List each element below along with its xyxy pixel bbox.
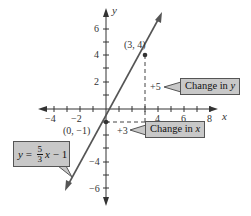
x-tick-label: 8 xyxy=(207,114,212,124)
change-in-x-callout: Change in x xyxy=(145,121,205,138)
point-0-neg1 xyxy=(104,120,109,125)
equation-equals: = xyxy=(23,148,35,160)
y-tick-label: 6 xyxy=(94,24,99,34)
change-in-y-text: Change in xyxy=(185,80,231,91)
change-in-x-var: x xyxy=(196,123,201,134)
x-axis xyxy=(38,106,218,112)
point-upper-label: (3, 4) xyxy=(124,40,146,50)
coordinate-plane xyxy=(0,0,251,216)
equation-rest: − 1 xyxy=(50,148,67,160)
x-tick-label: −4 xyxy=(45,114,56,124)
equation-pointer xyxy=(58,166,72,177)
point-3-4 xyxy=(143,53,148,58)
point-lower-label: (0, −1) xyxy=(63,126,90,136)
y-tick-label: 2 xyxy=(94,77,99,87)
equation-numerator: 5 xyxy=(37,145,44,155)
equation-callout: y = 5 3 x − 1 xyxy=(13,141,70,167)
rise-label: +5 xyxy=(150,82,161,92)
y-tick-label: −6 xyxy=(89,184,100,194)
change-in-y-pointer xyxy=(164,82,181,92)
change-in-x-pointer xyxy=(130,125,146,135)
y-tick-label: 4 xyxy=(94,50,99,60)
change-in-x-text: Change in xyxy=(150,123,196,134)
equation-denominator: 3 xyxy=(38,155,43,164)
y-axis xyxy=(103,8,109,206)
run-label: +3 xyxy=(117,126,128,136)
slope-guides xyxy=(106,55,145,122)
equation-fraction: 5 3 xyxy=(37,145,44,164)
y-axis-label: y xyxy=(112,5,117,16)
y-tick-label: −4 xyxy=(89,157,100,167)
x-axis-label: x xyxy=(222,111,227,122)
change-in-y-var: y xyxy=(231,80,236,91)
change-in-y-callout: Change in y xyxy=(180,78,240,95)
x-tick-label: −2 xyxy=(71,114,82,124)
function-line xyxy=(65,12,162,191)
